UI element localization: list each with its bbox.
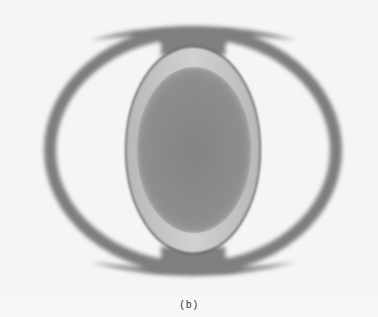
density-plot [0,0,378,317]
panel-label: (b) [0,300,378,311]
figure-panel: (b) [0,0,378,317]
scan-grain [0,0,378,295]
